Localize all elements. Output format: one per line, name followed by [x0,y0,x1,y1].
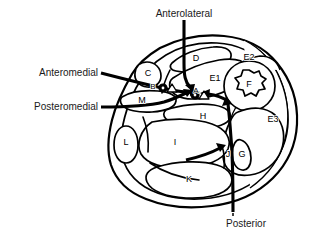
region-label-c: C [145,68,152,78]
region-label-d: D [193,53,200,63]
anatomical-cross-section-diagram: A B C D E1 E2 E3 F G H I J K L M Anterol… [0,0,320,238]
portal-b-dot-core-icon [162,87,165,90]
region-label-m: M [138,95,146,105]
callout-label-posteromedial: Posteromedial [34,101,98,112]
figure-root: A B C D E1 E2 E3 F G H I J K L M Anterol… [0,0,320,238]
region-label-f: F [246,79,252,89]
region-label-i: I [174,137,177,147]
region-label-k: K [186,174,192,184]
region-label-e3: E3 [267,114,278,124]
region-label-e2: E2 [243,52,254,62]
callout-label-anteromedial: Anteromedial [39,67,98,78]
region-label-e1: E1 [209,73,220,83]
region-label-a: A [193,86,199,95]
callout-label-posterior: Posterior [226,218,267,229]
region-label-g: G [238,149,245,159]
region-label-j: J [226,149,231,159]
callout-label-anterolateral: Anterolateral [156,8,213,19]
region-label-b: B [150,82,155,91]
region-label-h: H [200,111,207,121]
region-i-outline [139,119,229,168]
region-label-l: L [123,137,128,147]
